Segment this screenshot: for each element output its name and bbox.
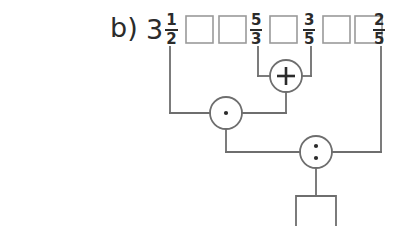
fraction-denominator: 5 xyxy=(303,32,315,47)
empty-box-2[interactable] xyxy=(219,16,246,43)
mixed-whole-part: 3 xyxy=(146,16,163,43)
divide-colon-icon xyxy=(314,144,318,160)
result-box[interactable] xyxy=(296,196,336,226)
fraction-numerator: 3 xyxy=(303,13,315,28)
empty-box-5[interactable] xyxy=(355,16,382,43)
empty-box-1[interactable] xyxy=(186,16,213,43)
fraction-denominator: 2 xyxy=(165,32,177,47)
divide-operator-circle xyxy=(300,136,332,168)
empty-box-3[interactable] xyxy=(270,16,297,43)
mixed-fraction-part: 1 2 xyxy=(165,13,177,48)
fraction-numerator: 5 xyxy=(250,13,262,28)
term-three-fifths: 3 5 xyxy=(303,12,315,47)
fraction-numerator: 1 xyxy=(165,13,177,28)
empty-box-4[interactable] xyxy=(323,16,350,43)
term-three-and-a-half: 3 1 2 xyxy=(146,12,178,47)
plus-icon xyxy=(277,67,295,85)
diagram-canvas: b) 3 1 2 5 3 3 5 2 5 xyxy=(0,0,402,226)
multiply-dot-icon xyxy=(224,111,228,115)
term-five-thirds: 5 3 xyxy=(250,12,262,47)
figure-label: b) xyxy=(110,14,138,41)
fraction-denominator: 3 xyxy=(250,32,262,47)
